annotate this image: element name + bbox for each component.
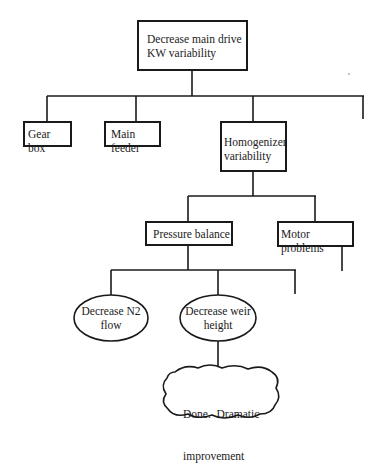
homogenizer-label-line2: variability (224, 149, 285, 163)
homogenizer-node: Homogenizer variability (220, 121, 287, 172)
motor-problems-label: Motor problems (281, 227, 352, 255)
decrease-n2-line2: flow (74, 318, 148, 332)
pressure-balance-label: Pressure balance (153, 227, 231, 241)
root-label-line1: Decrease main drive (147, 32, 246, 46)
outcome-line1: Done. Dramatic (183, 407, 278, 421)
decrease-weir-line2: height (180, 318, 256, 332)
main-feeder-label: Main feeder (111, 127, 159, 155)
decrease-weir-line1: Decrease weir (180, 304, 256, 318)
decrease-weir-label: Decrease weir height (180, 304, 256, 332)
gear-box-label: Gear box (28, 127, 70, 155)
decrease-n2-label: Decrease N2 flow (74, 304, 148, 332)
root-label-line2: KW variability (147, 46, 246, 60)
root-box: Decrease main drive KW variability (137, 20, 248, 71)
motor-problems-node: Motor problems (277, 221, 354, 247)
gear-box-node: Gear box (23, 121, 72, 147)
homogenizer-label-line1: Homogenizer (224, 135, 285, 149)
outcome-line2: improvement (183, 449, 278, 463)
pressure-balance-node: Pressure balance (145, 221, 233, 246)
main-feeder-node: Main feeder (104, 121, 161, 147)
decrease-n2-line1: Decrease N2 (74, 304, 148, 318)
outcome-label: Done. Dramatic improvement (183, 379, 278, 467)
